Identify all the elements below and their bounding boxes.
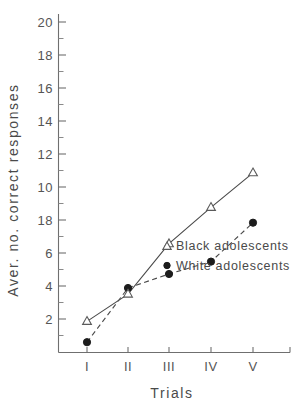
x-tick-label: V (248, 359, 257, 374)
y-tick-label: 4 (45, 279, 53, 294)
y-tick-label: 12 (38, 147, 53, 162)
y-tick-label: 16 (38, 81, 53, 96)
y-tick-label: 2 (45, 312, 53, 327)
y-tick-label: 20 (38, 15, 53, 30)
data-point-marker (83, 339, 90, 346)
y-axis-title: Aver. no. correct responses (5, 83, 21, 296)
legend-label-white-adolescents: White adolescents (176, 259, 290, 273)
x-axis-tick-labels: I II III IV V (85, 359, 258, 374)
x-tick-label: I (85, 359, 89, 374)
legend-marker-filled-circle-icon (164, 262, 170, 268)
data-point-marker (249, 219, 256, 226)
y-axis-tick-labels: 20 18 16 14 12 10 18 6 4 2 (38, 15, 53, 327)
y-tick-label: 18 (38, 213, 53, 228)
line-chart-svg: 20 18 16 14 12 10 18 6 4 2 I II III IV V (0, 0, 301, 404)
data-point-marker (165, 270, 172, 277)
x-tick-label: IV (204, 359, 217, 374)
x-axis-ticks (87, 347, 290, 353)
x-tick-label: II (124, 359, 132, 374)
data-point-marker (207, 203, 216, 211)
x-axis-title: Trials (150, 385, 193, 401)
chart-figure: 20 18 16 14 12 10 18 6 4 2 I II III IV V (0, 0, 301, 404)
chart-legend: Black adolescents White adolescents (163, 239, 290, 273)
data-point-marker (83, 317, 92, 325)
y-tick-label: 14 (38, 114, 53, 129)
y-tick-label: 6 (45, 246, 53, 261)
y-tick-label: 10 (38, 180, 53, 195)
legend-label-black-adolescents: Black adolescents (176, 239, 289, 253)
x-tick-label: III (163, 359, 175, 374)
data-point-marker (249, 168, 258, 176)
y-tick-label: 18 (38, 48, 53, 63)
